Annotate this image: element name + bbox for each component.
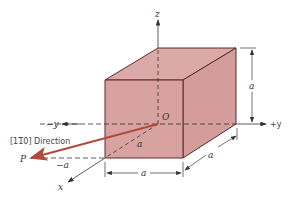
depth-a-label: a (208, 150, 213, 160)
x-axis-label: x (58, 182, 63, 192)
cube (105, 48, 236, 158)
minus-a-label: −a (56, 160, 69, 170)
bottom-a-label: a (141, 168, 146, 178)
plus-y-label: +y (270, 120, 282, 129)
diagonal-a-label: a (137, 139, 142, 149)
cube-front-face (105, 80, 183, 158)
point-p-label: P (19, 154, 27, 164)
origin-label: O (162, 112, 170, 122)
x-axis-arrow (68, 158, 105, 182)
depth-dim-line-down (185, 155, 206, 170)
vertical-a-label: a (249, 81, 254, 91)
unit-cell-diagram: z −y +y x −a P O a [110] Direction a a a (0, 0, 294, 199)
minus-y-label: −y (46, 119, 60, 129)
z-axis-label: z (154, 9, 160, 19)
depth-dim-line-up (218, 136, 236, 147)
direction-label: [110] Direction (10, 137, 70, 146)
